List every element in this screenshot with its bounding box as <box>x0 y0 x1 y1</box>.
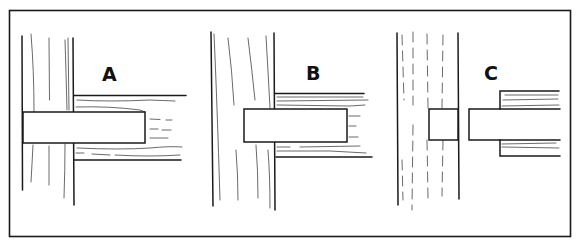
rail-c <box>469 91 560 156</box>
mortise-c <box>429 109 458 140</box>
panel-b: B <box>211 32 372 210</box>
panel-c: C <box>397 32 560 210</box>
panel-label-c: C <box>484 62 498 84</box>
joint-diagram: A <box>0 0 579 243</box>
panel-a: A <box>22 34 186 205</box>
panel-label-b: B <box>306 62 320 84</box>
panel-label-a: A <box>102 63 117 85</box>
tenon-a <box>23 112 145 143</box>
tenon-b <box>244 109 347 142</box>
